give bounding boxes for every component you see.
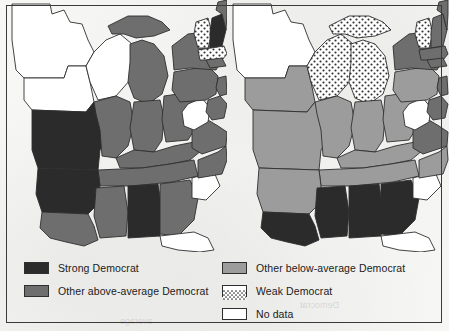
state-ct [427,58,447,68]
legend-swatch-other-above-average-democrat [24,285,49,297]
state-mi-lower [349,40,389,104]
state-la [261,212,319,246]
state-pa [393,66,439,102]
legend-column-right: Other below-average Democrat [222,256,405,325]
maps-area [0,0,449,252]
legend-swatch-other-below-average-democrat [222,262,247,274]
state-in [130,100,164,152]
state-fl [381,232,435,252]
legend-item: No data [222,302,405,325]
legend-swatch-no-data [222,308,247,320]
state-fl [160,232,214,252]
state-mo [253,102,327,170]
state-ar [36,168,100,214]
state-vt [194,18,212,48]
legend-label: Strong Democrat [58,262,139,274]
state-pa [172,66,218,102]
legend-swatch-strong-democrat [24,262,49,274]
legend-label: Other below-average Democrat [256,262,405,274]
stipple-pattern-icon [223,290,246,300]
map-panel-right [222,0,449,252]
state-in [351,100,385,152]
map-panel-left [2,0,227,252]
state-la [40,212,98,246]
state-ar [257,168,321,214]
legend-item: Weak Democrat [222,279,405,302]
state-ms [94,186,128,238]
legend-label: Other above-average Democrat [58,285,208,297]
legend-item: Other below-average Democrat [222,256,405,279]
state-mi-lower [128,40,168,104]
state-nj [437,76,448,96]
state-al [349,184,383,238]
state-vt [415,18,433,48]
legend: Strong Democrat Other above-average Demo… [0,252,449,331]
legend-swatch-weak-democrat [222,285,247,297]
legend-label: Weak Democrat [256,285,332,297]
legend-item: Strong Democrat [24,256,208,279]
legend-column-left: Strong Democrat Other above-average Demo… [24,256,208,302]
state-md [427,96,448,120]
legend-label: No data [256,308,293,320]
legend-item: Other above-average Democrat [24,279,208,302]
state-al [128,184,162,238]
state-ms [315,186,349,238]
state-mo [32,102,106,170]
figure-container: Democrat average [0,0,449,331]
